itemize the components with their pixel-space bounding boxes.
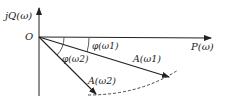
vector-label-a-omega1: A(ω1): [132, 53, 161, 64]
angle-arc-phi-omega1: [87, 38, 89, 52]
angle-arc-phi-omega2: [57, 38, 64, 56]
horizontal-axis: [39, 37, 211, 38]
vector-label-a-omega2: A(ω2): [87, 75, 116, 86]
phasor-diagram: jQ(ω) O P(ω) φ(ω1) φ(ω2) A(ω1) A(ω2): [0, 0, 227, 112]
origin-label: O: [25, 31, 33, 42]
horizontal-axis-label: P(ω): [190, 41, 214, 52]
angle-label-phi-omega2: φ(ω2): [62, 54, 89, 64]
angle-label-phi-omega1: φ(ω1): [92, 41, 119, 51]
vertical-axis-label: jQ(ω): [3, 10, 32, 21]
